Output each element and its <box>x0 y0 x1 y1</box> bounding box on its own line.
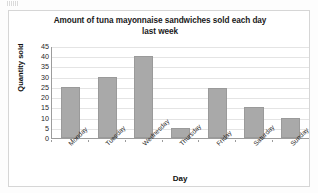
y-axis-title: Quantity sold <box>16 28 25 108</box>
bar-slot <box>272 47 309 138</box>
x-slot: Monday <box>51 140 88 174</box>
bar-slot <box>125 47 162 138</box>
x-axis-title: Day <box>51 174 309 183</box>
bar-slot <box>236 47 273 138</box>
x-axis-tick-labels: MondayTuesdayWednesdayThursdayFridaySatu… <box>51 140 309 174</box>
x-axis-tick-mark <box>198 140 199 142</box>
scan-artifact <box>7 1 19 6</box>
y-axis-tick-label: 25 <box>29 84 49 92</box>
chart-title: Amount of tuna mayonnaise sandwiches sol… <box>23 16 297 37</box>
bar[interactable] <box>208 88 227 138</box>
y-axis-tick-label: 5 <box>29 125 49 133</box>
chart-page: Amount of tuna mayonnaise sandwiches sol… <box>0 0 318 193</box>
y-axis-tick-label: 20 <box>29 94 49 102</box>
x-axis-tick-mark <box>51 140 52 142</box>
y-axis-tick-label: 35 <box>29 63 49 71</box>
x-slot: Saturday <box>235 140 272 174</box>
y-axis-tick-label: 45 <box>29 43 49 51</box>
y-axis-tick-labels: 454035302520151050 <box>29 42 49 144</box>
bar[interactable] <box>134 56 153 138</box>
bar-slot <box>199 47 236 138</box>
x-slot: Thursday <box>162 140 199 174</box>
x-axis-tick-mark <box>235 140 236 142</box>
x-slot: Wednesday <box>125 140 162 174</box>
x-slot: Tuesday <box>88 140 125 174</box>
y-axis-tick-label: 40 <box>29 53 49 61</box>
x-slot: Sunday <box>272 140 309 174</box>
chart-frame: Amount of tuna mayonnaise sandwiches sol… <box>8 10 310 187</box>
y-axis-tick-label: 0 <box>29 135 49 143</box>
x-axis-tick-mark <box>162 140 163 142</box>
x-axis-tick-mark <box>272 140 273 142</box>
y-axis-tick-label: 10 <box>29 115 49 123</box>
x-axis-tick-mark <box>125 140 126 142</box>
chart-title-line-1: Amount of tuna mayonnaise sandwiches sol… <box>54 16 267 25</box>
bar[interactable] <box>98 77 117 138</box>
chart-title-line-2: last week <box>142 27 178 36</box>
y-axis-tick-label: 30 <box>29 74 49 82</box>
y-axis-tick-label: 15 <box>29 104 49 112</box>
x-axis-tick-mark <box>88 140 89 142</box>
x-slot: Friday <box>198 140 235 174</box>
